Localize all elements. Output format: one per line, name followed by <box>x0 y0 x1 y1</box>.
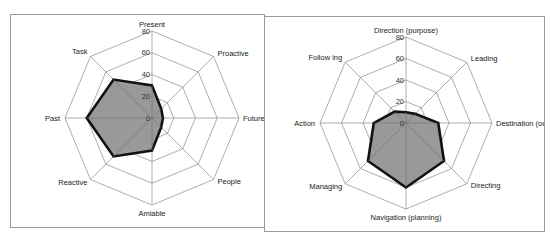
radar-plot-right: 020406080Direction (purpose)LeadingDesti… <box>265 17 544 231</box>
axis-label: People <box>218 177 241 186</box>
axis-label: Past <box>45 114 61 123</box>
tick-label: 20 <box>142 92 150 101</box>
axis-label: Future <box>243 114 264 123</box>
axis-label: Present <box>139 20 166 29</box>
axis-label: Leading <box>471 54 498 63</box>
tick-label: 20 <box>396 97 404 106</box>
axis-label: Direction (purpose) <box>374 26 438 35</box>
axis-label: Task <box>72 47 88 56</box>
tick-label: 40 <box>142 70 150 79</box>
tick-label: 60 <box>142 48 150 57</box>
tick-label: 0 <box>146 114 150 123</box>
axis-label: Directing <box>471 181 501 190</box>
axis-label: Amiable <box>138 209 165 218</box>
axis-label: Destination (outco <box>496 119 544 128</box>
axis-label: Follow ing <box>308 53 342 62</box>
axis-label: Navigation (planning) <box>371 213 442 222</box>
axis-label: Action <box>294 119 315 128</box>
radar-plot-left: 020406080PresentProactiveFuturePeopleAmi… <box>11 15 264 227</box>
axis-label: Reactive <box>58 178 87 187</box>
axis-label: Managing <box>309 182 342 191</box>
tick-label: 60 <box>396 54 404 63</box>
tick-label: 0 <box>400 119 404 128</box>
radar-chart-right: 020406080Direction (purpose)LeadingDesti… <box>264 16 545 232</box>
axis-label: Proactive <box>218 49 249 58</box>
tick-label: 40 <box>396 76 404 85</box>
radar-chart-left: 020406080PresentProactiveFuturePeopleAmi… <box>10 14 265 228</box>
